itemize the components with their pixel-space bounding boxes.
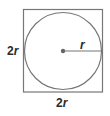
side-label-bottom: 2r [56,97,67,109]
side-label-bottom-variable: r [63,96,68,110]
side-label-left: 2r [7,45,18,57]
center-point [61,49,65,53]
side-label-bottom-number: 2 [56,96,63,110]
radius-label-variable: r [80,38,85,52]
radius-label: r [80,39,85,51]
side-label-left-variable: r [14,44,19,58]
inscribed-circle-diagram [0,0,110,116]
side-label-left-number: 2 [7,44,14,58]
